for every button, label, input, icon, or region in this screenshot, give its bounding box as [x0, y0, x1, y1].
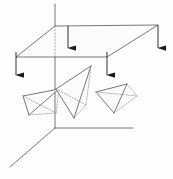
geometry-diagram: [0, 0, 173, 179]
figure-container: [0, 0, 173, 179]
